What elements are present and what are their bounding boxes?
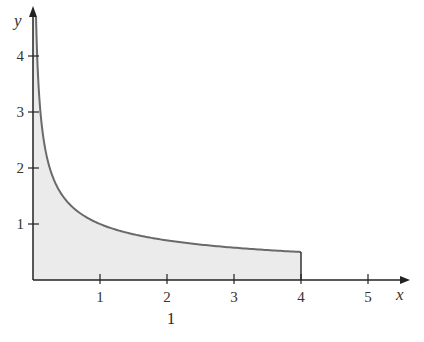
svg-text:1: 1	[17, 216, 25, 232]
svg-text:4: 4	[17, 48, 25, 64]
y-axis-arrow-icon	[29, 6, 37, 17]
x-axis-label: x	[395, 285, 404, 304]
y-axis-label: y	[12, 11, 22, 30]
caption-fraction-numerator: 1	[167, 310, 175, 328]
x-axis-arrow-icon	[400, 276, 410, 284]
chart-area: 12345 1234 x y	[0, 0, 424, 320]
svg-text:1: 1	[96, 289, 104, 305]
figure-caption: 1	[0, 318, 424, 342]
svg-text:5: 5	[364, 289, 372, 305]
svg-text:3: 3	[17, 104, 25, 120]
svg-text:2: 2	[17, 160, 25, 176]
svg-text:4: 4	[297, 289, 305, 305]
svg-text:3: 3	[230, 289, 238, 305]
svg-text:2: 2	[163, 289, 171, 305]
